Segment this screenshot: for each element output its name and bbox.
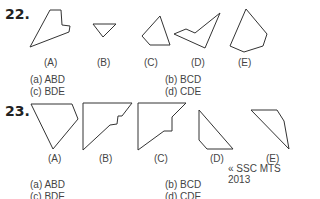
figure-label-23-c: (C) <box>154 153 168 164</box>
option-23-c[interactable]: (c) BDE <box>30 191 65 199</box>
source-citation: « SSC MTS 2013 <box>228 163 300 185</box>
option-23-b[interactable]: (b) BCD <box>165 179 201 190</box>
figure-label-23-a: (A) <box>48 153 61 164</box>
figure-label-23-d: (D) <box>210 153 224 164</box>
option-23-a[interactable]: (a) ABD <box>30 179 65 190</box>
figure-label-23-b: (B) <box>99 153 112 164</box>
option-23-d[interactable]: (d) CDE <box>165 191 201 199</box>
